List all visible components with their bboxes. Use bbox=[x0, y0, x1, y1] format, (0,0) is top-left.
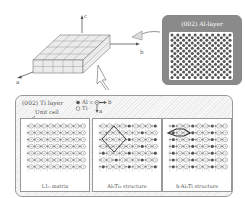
panel-caption: Al₅Ti₃ structure bbox=[93, 183, 161, 189]
l10-lattice-icon bbox=[24, 122, 86, 174]
axis-b-label: b bbox=[140, 50, 144, 56]
axis-c-label: c bbox=[84, 14, 87, 20]
panel-caption: h-Al₂Ti structure bbox=[163, 183, 231, 189]
legend-ti-label: Ti bbox=[82, 106, 87, 112]
unit-cell-label: Unit cell bbox=[35, 110, 59, 116]
panel-caption: L1₀ matrix bbox=[21, 183, 89, 189]
crystal-block-diagram: c b a bbox=[0, 0, 160, 90]
mini-axis-a-label: a bbox=[99, 109, 102, 115]
ti-layer-panel: (002) Ti layer Al Ti c b a Unit cell L1₀… bbox=[15, 95, 233, 197]
al-layer-title: (002) Al-layer bbox=[167, 18, 237, 30]
panel-al5ti3-structure: Al₅Ti₃ structure bbox=[92, 118, 162, 192]
axis-a-label: a bbox=[16, 80, 19, 86]
al-layer-atom-grid bbox=[169, 32, 233, 80]
layered-crystal-block-icon bbox=[0, 0, 160, 90]
al-layer-panel: (002) Al-layer bbox=[162, 15, 242, 85]
panel-l10-matrix: L1₀ matrix bbox=[20, 118, 90, 192]
mini-axis-b-label: b bbox=[108, 100, 112, 106]
h-al2ti-lattice-icon bbox=[166, 122, 228, 174]
al5ti3-lattice-icon bbox=[96, 122, 158, 174]
mini-axis-c-label: c bbox=[90, 100, 93, 106]
al-atom-lattice-icon bbox=[169, 32, 233, 80]
panel-h-al2ti-structure: h-Al₂Ti structure bbox=[162, 118, 232, 192]
